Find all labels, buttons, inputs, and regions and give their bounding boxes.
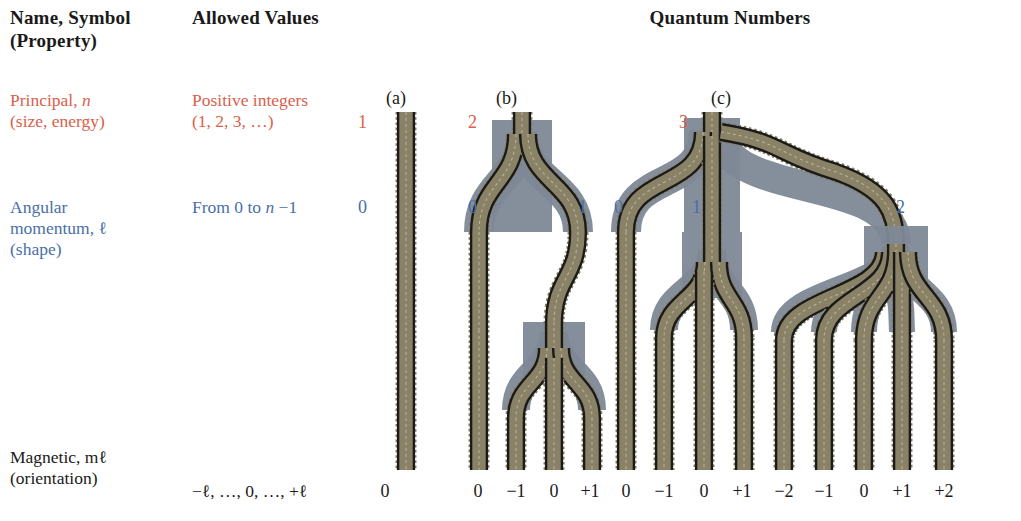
- magnetic-quantum-number-c-7: +1: [879, 481, 925, 502]
- magnetic-quantum-number-c-3: +1: [719, 481, 765, 502]
- angular-quantum-number-a-0: 0: [358, 198, 367, 216]
- principal-quantum-number-b: 2: [468, 113, 477, 131]
- magnetic-quantum-number-a-0: 0: [362, 481, 408, 502]
- angular-quantum-number-b-0: 0: [468, 198, 477, 216]
- panel-caption-b: (b): [496, 88, 517, 109]
- principal-quantum-number-c: 3: [679, 113, 688, 131]
- panel-caption-a: (a): [386, 88, 406, 109]
- principal-quantum-number-a: 1: [358, 113, 367, 131]
- magnetic-quantum-number-c-8: +2: [921, 481, 967, 502]
- angular-quantum-number-b-1: 1: [578, 198, 587, 216]
- panel-caption-c: (c): [711, 88, 731, 109]
- angular-quantum-number-c-0: 0: [614, 198, 623, 216]
- angular-quantum-number-c-1: 1: [692, 198, 701, 216]
- angular-quantum-number-c-2: 2: [896, 198, 905, 216]
- orbital-track-diagram: [0, 0, 1021, 521]
